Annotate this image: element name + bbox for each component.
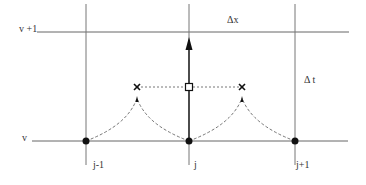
dashed-curve-right-b	[242, 98, 295, 141]
stencil-diagram: v +1 v Δx Δ t j-1 j j+1	[0, 0, 366, 185]
dashed-curve-left-b	[137, 98, 189, 141]
arrow-head-left-icon	[136, 96, 139, 102]
label-j-plus-1: j+1	[296, 160, 309, 170]
label-v: v	[22, 133, 27, 143]
dashed-curve-left-a	[86, 98, 137, 141]
cross-right-icon	[239, 84, 245, 90]
cross-left-icon	[134, 84, 140, 90]
label-delta-x: Δx	[227, 15, 238, 25]
label-j: j	[194, 160, 197, 170]
node-dot-j-minus-1	[83, 138, 90, 145]
label-j-minus-1: j-1	[93, 160, 104, 170]
square-marker-icon	[186, 84, 193, 91]
label-v-plus-1: v +1	[19, 24, 37, 34]
label-delta-t: Δ t	[304, 75, 315, 85]
diagram-graphics	[0, 0, 366, 185]
dashed-curve-right-a	[189, 98, 242, 141]
arrow-head-right-icon	[241, 96, 244, 102]
node-dot-j-plus-1	[292, 138, 299, 145]
node-dot-j	[186, 138, 193, 145]
